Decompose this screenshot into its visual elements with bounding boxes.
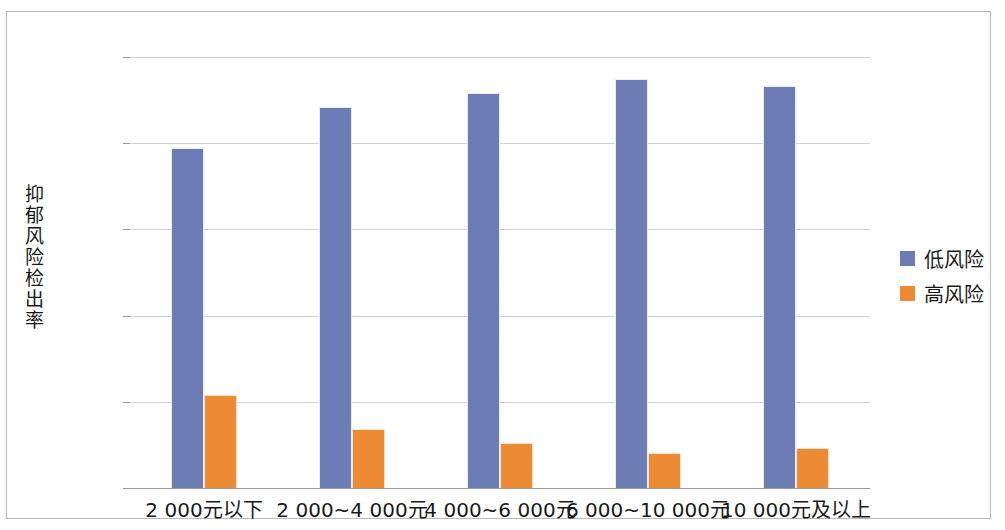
y-axis-tick-mark xyxy=(123,316,130,317)
bar-pair xyxy=(278,57,426,488)
y-axis-tick-mark xyxy=(123,488,130,489)
bar-high-risk[interactable] xyxy=(204,395,237,488)
y-axis-tick-mark xyxy=(123,57,130,58)
plot-area xyxy=(130,57,870,488)
bar-group xyxy=(722,57,870,488)
x-axis-line xyxy=(130,488,870,489)
bar-high-risk[interactable] xyxy=(796,448,829,488)
x-axis-tick-label: 2 000元以下 xyxy=(145,494,262,523)
legend-item[interactable]: 低风险 xyxy=(900,243,984,273)
chart-container: 抑郁风险检出率 100%80%60%40%20%0% 2 000元以下2 000… xyxy=(0,0,1005,530)
bar-high-risk[interactable] xyxy=(648,453,681,488)
bar-low-risk[interactable] xyxy=(615,79,648,488)
legend-label: 高风险 xyxy=(924,279,984,308)
bar-group xyxy=(426,57,574,488)
bar-low-risk[interactable] xyxy=(467,93,500,488)
chart-legend: 低风险高风险 xyxy=(900,243,984,313)
y-axis-tick-mark xyxy=(123,402,130,403)
legend-color-swatch xyxy=(900,251,915,266)
bar-low-risk[interactable] xyxy=(319,107,352,488)
bar-group xyxy=(130,57,278,488)
x-axis-tick-label: 6 000~10 000元 xyxy=(566,494,730,523)
legend-label: 低风险 xyxy=(924,244,984,273)
bar-pair xyxy=(574,57,722,488)
bar-low-risk[interactable] xyxy=(171,148,204,488)
x-axis-tick-label: 10 000元及以上 xyxy=(721,494,871,523)
bar-group xyxy=(574,57,722,488)
bar-pair xyxy=(426,57,574,488)
bar-low-risk[interactable] xyxy=(763,86,796,488)
x-axis-tick-label: 4 000~6 000元 xyxy=(424,494,575,523)
legend-color-swatch xyxy=(900,286,915,301)
bar-high-risk[interactable] xyxy=(500,443,533,488)
y-axis-tick-mark xyxy=(123,143,130,144)
y-axis-tick-mark xyxy=(123,229,130,230)
legend-item[interactable]: 高风险 xyxy=(900,278,984,308)
x-axis-tick-label: 2 000~4 000元 xyxy=(276,494,427,523)
bar-group xyxy=(278,57,426,488)
bar-high-risk[interactable] xyxy=(352,429,385,488)
bar-pair xyxy=(722,57,870,488)
y-axis-tick-labels: 100%80%60%40%20%0% xyxy=(0,0,130,530)
bar-pair xyxy=(130,57,278,488)
